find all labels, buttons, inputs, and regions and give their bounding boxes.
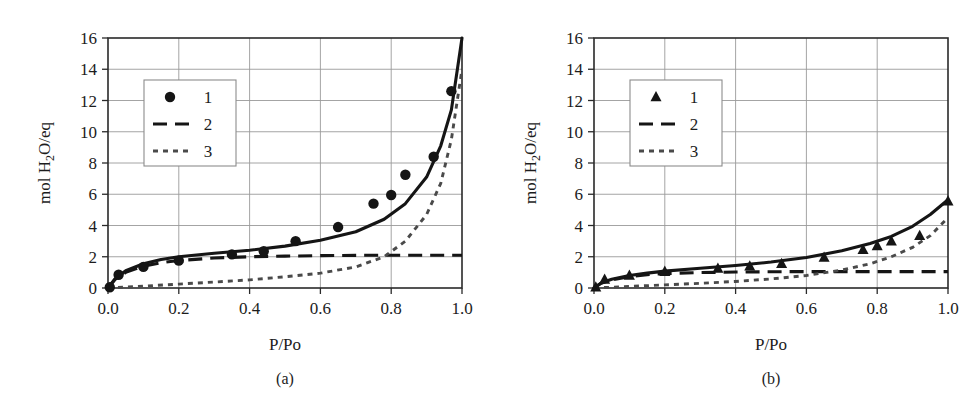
- legend-label: 2: [204, 115, 213, 134]
- ytick-label: 10: [80, 123, 97, 142]
- xtick-label: 0.2: [654, 299, 675, 318]
- panel-a-ytick-labels: 0246810121416: [80, 29, 98, 298]
- panel-b-series: [590, 195, 953, 291]
- data-point-marker: [446, 86, 456, 96]
- ytick-label: 16: [566, 29, 583, 48]
- panel-a: 0246810121416 0.00.20.40.60.81.0 123 P/P…: [0, 0, 486, 408]
- ytick-label: 12: [80, 92, 97, 111]
- legend-circle-icon: [165, 92, 175, 102]
- panel-b-legend: 123: [630, 80, 722, 166]
- xtick-label: 0.8: [867, 299, 888, 318]
- panel-b-xtick-labels: 0.00.20.40.60.81.0: [583, 299, 958, 318]
- panel-a-xaxis-title: P/Po: [269, 335, 301, 354]
- ytick-label: 14: [566, 60, 584, 79]
- ytick-label: 14: [80, 60, 98, 79]
- data-point-marker: [599, 273, 610, 283]
- ytick-label: 6: [89, 185, 98, 204]
- data-point-marker: [105, 282, 115, 292]
- ytick-label: 2: [575, 248, 584, 267]
- yaxis-title-main: mol H: [521, 161, 540, 204]
- xtick-label: 0.0: [97, 299, 118, 318]
- legend-label: 3: [204, 142, 213, 161]
- xtick-label: 0.4: [725, 299, 747, 318]
- ytick-label: 0: [89, 279, 98, 298]
- panel-a-yaxis-title: mol H2O/eq: [35, 121, 57, 204]
- data-point-marker: [138, 262, 148, 272]
- data-point-marker: [368, 198, 378, 208]
- xtick-label: 1.0: [451, 299, 472, 318]
- data-point-marker: [113, 270, 123, 280]
- panel-b-svg: 0246810121416 0.00.20.40.60.81.0 123 P/P…: [486, 0, 972, 408]
- ytick-label: 8: [89, 154, 98, 173]
- ytick-label: 16: [80, 29, 97, 48]
- data-point-marker: [227, 249, 237, 259]
- legend-label: 3: [690, 142, 699, 161]
- panel-a-svg: 0246810121416 0.00.20.40.60.81.0 123 P/P…: [0, 0, 486, 408]
- panel-a-plot-area: 0246810121416 0.00.20.40.60.81.0 123 P/P…: [35, 29, 473, 388]
- xtick-label: 0.6: [310, 299, 331, 318]
- panel-b: 0246810121416 0.00.20.40.60.81.0 123 P/P…: [486, 0, 972, 408]
- panel-b-caption: (b): [762, 370, 781, 388]
- panel-a-caption: (a): [276, 370, 294, 388]
- ytick-label: 4: [575, 217, 584, 236]
- xtick-label: 1.0: [937, 299, 958, 318]
- yaxis-title-main: mol H: [35, 161, 54, 204]
- xtick-label: 0.2: [168, 299, 189, 318]
- ytick-label: 8: [575, 154, 584, 173]
- series-line-3: [594, 218, 948, 288]
- panel-a-legend: 123: [144, 80, 236, 166]
- data-point-marker: [333, 222, 343, 232]
- ytick-label: 2: [89, 248, 98, 267]
- panel-b-yaxis-title: mol H2O/eq: [521, 121, 543, 204]
- panel-b-plot-area: 0246810121416 0.00.20.40.60.81.0 123 P/P…: [521, 29, 959, 388]
- data-point-marker: [942, 195, 953, 205]
- yaxis-title-tail: O/eq: [521, 121, 540, 155]
- yaxis-title: mol H2O/eq: [35, 121, 57, 204]
- data-point-marker: [174, 255, 184, 265]
- data-point-marker: [259, 246, 269, 256]
- data-point-marker: [386, 190, 396, 200]
- data-point-marker: [428, 152, 438, 162]
- panel-a-xtick-labels: 0.00.20.40.60.81.0: [97, 299, 472, 318]
- legend-label: 2: [690, 115, 699, 134]
- data-point-marker: [290, 236, 300, 246]
- ytick-label: 12: [566, 92, 583, 111]
- yaxis-title-tail: O/eq: [35, 121, 54, 155]
- panel-b-ytick-labels: 0246810121416: [566, 29, 584, 298]
- ytick-label: 6: [575, 185, 584, 204]
- xtick-label: 0.0: [583, 299, 604, 318]
- panel-b-xaxis-title: P/Po: [755, 335, 787, 354]
- ytick-label: 0: [575, 279, 584, 298]
- xtick-label: 0.6: [796, 299, 817, 318]
- data-point-marker: [914, 230, 925, 240]
- xtick-label: 0.4: [239, 299, 261, 318]
- figure-container: 0246810121416 0.00.20.40.60.81.0 123 P/P…: [0, 0, 972, 408]
- ytick-label: 4: [89, 217, 98, 236]
- legend-label: 1: [690, 88, 699, 107]
- legend-label: 1: [204, 88, 213, 107]
- data-point-marker: [400, 170, 410, 180]
- ytick-label: 10: [566, 123, 583, 142]
- xtick-label: 0.8: [381, 299, 402, 318]
- yaxis-title: mol H2O/eq: [521, 121, 543, 204]
